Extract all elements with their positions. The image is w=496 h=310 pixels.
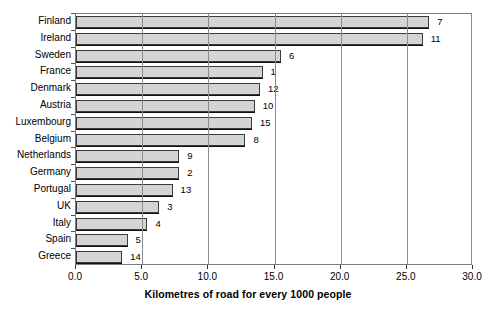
category-label-netherlands: Netherlands — [17, 147, 71, 164]
category-label-austria: Austria — [40, 97, 71, 114]
x-axis-tick — [75, 265, 76, 269]
category-tick — [71, 13, 75, 14]
category-tick — [71, 198, 75, 199]
bar — [76, 134, 245, 146]
bar-value-label: 9 — [187, 149, 192, 162]
gridline — [341, 14, 342, 264]
category-label-portugal: Portugal — [34, 181, 71, 198]
bar-row: 15 — [76, 115, 471, 132]
bar — [76, 50, 281, 62]
x-axis-tick — [340, 265, 341, 269]
x-axis-tick — [472, 265, 473, 269]
y-axis-category-labels: FinlandIrelandSwedenFranceDenmarkAustria… — [0, 13, 71, 265]
bar-row: 8 — [76, 132, 471, 149]
bar — [76, 167, 179, 179]
category-label-greece: Greece — [38, 248, 71, 265]
x-axis-tick — [274, 265, 275, 269]
category-label-uk: UK — [57, 198, 71, 215]
bar — [76, 218, 147, 230]
gridline — [208, 14, 209, 264]
x-axis-tick — [207, 265, 208, 269]
x-axis-tick — [406, 265, 407, 269]
category-tick — [71, 80, 75, 81]
gridline — [142, 14, 143, 264]
category-tick — [71, 63, 75, 64]
bar-row: 1 — [76, 64, 471, 81]
bar-row: 10 — [76, 98, 471, 115]
gridline — [275, 14, 276, 264]
x-axis-tick-label: 5.0 — [121, 270, 161, 284]
bar-value-label: 8 — [253, 133, 258, 146]
gridline — [407, 14, 408, 264]
category-label-ireland: Ireland — [40, 30, 71, 47]
bar-row: 3 — [76, 199, 471, 216]
bar-row: 2 — [76, 165, 471, 182]
category-label-france: France — [40, 63, 71, 80]
bar-row: 9 — [76, 148, 471, 165]
bar-row: 4 — [76, 216, 471, 233]
bar-value-label: 14 — [130, 250, 141, 263]
bar-chart: FinlandIrelandSwedenFranceDenmarkAustria… — [0, 0, 496, 310]
bar-value-label: 11 — [431, 32, 441, 45]
bar-row: 5 — [76, 232, 471, 249]
x-axis-tick — [141, 265, 142, 269]
bar-value-label: 15 — [260, 116, 271, 129]
bar — [76, 150, 179, 162]
category-label-germany: Germany — [30, 164, 71, 181]
bar — [76, 66, 263, 78]
category-tick — [71, 131, 75, 132]
category-tick — [71, 30, 75, 31]
x-axis-tick-label: 25.0 — [386, 270, 426, 284]
bar-value-label: 7 — [437, 15, 442, 28]
category-label-italy: Italy — [53, 215, 71, 232]
bar — [76, 201, 159, 213]
category-tick — [71, 231, 75, 232]
category-label-denmark: Denmark — [30, 80, 71, 97]
bar-row: 7 — [76, 14, 471, 31]
category-label-spain: Spain — [45, 231, 71, 248]
x-axis-tick-label: 15.0 — [254, 270, 294, 284]
x-axis-tick-label: 10.0 — [187, 270, 227, 284]
category-label-finland: Finland — [38, 13, 71, 30]
bar-value-label: 4 — [155, 217, 160, 230]
bar — [76, 251, 122, 263]
bar-value-label: 2 — [187, 166, 192, 179]
bar-value-label: 12 — [268, 82, 279, 95]
bar — [76, 83, 260, 95]
bar-rows: 711611210158921334514 — [76, 14, 471, 264]
bar — [76, 234, 128, 246]
category-tick — [71, 47, 75, 48]
bar — [76, 100, 255, 112]
x-axis-tick-label: 30.0 — [452, 270, 492, 284]
bar-value-label: 13 — [181, 183, 192, 196]
bar-row: 11 — [76, 31, 471, 48]
plot-area: 711611210158921334514 — [75, 13, 472, 265]
bar-value-label: 6 — [289, 49, 294, 62]
category-tick — [71, 97, 75, 98]
category-tick — [71, 164, 75, 165]
bar-value-label: 5 — [136, 233, 141, 246]
category-tick — [71, 248, 75, 249]
bar-row: 12 — [76, 81, 471, 98]
category-tick — [71, 181, 75, 182]
bar — [76, 117, 252, 129]
bar-value-label: 3 — [167, 200, 172, 213]
category-tick — [71, 114, 75, 115]
bar-row: 14 — [76, 249, 471, 266]
bar — [76, 33, 423, 45]
bar — [76, 16, 429, 28]
bar-value-label: 10 — [263, 99, 274, 112]
bar-row: 13 — [76, 182, 471, 199]
category-tick — [71, 147, 75, 148]
category-tick — [71, 215, 75, 216]
x-axis-title: Kilometres of road for every 1000 people — [0, 288, 496, 300]
bar-row: 6 — [76, 48, 471, 65]
category-label-sweden: Sweden — [35, 47, 71, 64]
x-axis-tick-label: 0.0 — [55, 270, 95, 284]
category-label-luxembourg: Luxembourg — [15, 114, 71, 131]
x-axis-tick-label: 20.0 — [320, 270, 360, 284]
category-label-belgium: Belgium — [35, 131, 71, 148]
bar — [76, 184, 173, 196]
